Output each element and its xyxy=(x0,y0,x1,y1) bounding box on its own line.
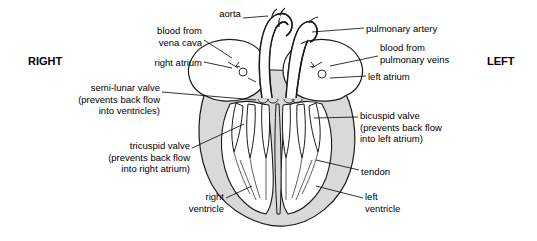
label-aorta: aorta xyxy=(200,8,260,20)
side-label-right: RIGHT xyxy=(28,56,62,68)
heart-diagram-page: RIGHT LEFT aorta blood from vena cava ri… xyxy=(0,0,537,241)
label-left-atrium: left atrium xyxy=(368,71,448,83)
label-blood-from-vena-cava: blood from vena cava xyxy=(110,25,202,48)
right-atrium-chamber xyxy=(188,39,268,101)
label-left-ventricle: left ventricle xyxy=(365,191,425,214)
label-bicuspid-valve: bicuspid valve (prevents back flow into … xyxy=(360,110,485,145)
label-right-atrium: right atrium xyxy=(119,57,202,69)
label-blood-from-pulmonary-veins: blood from pulmonary veins xyxy=(380,42,490,65)
side-label-left: LEFT xyxy=(487,56,515,68)
label-tendon: tendon xyxy=(361,166,421,178)
label-right-ventricle: right ventricle xyxy=(158,191,224,214)
label-tricuspid-valve: tricuspid valve (prevents back flow into… xyxy=(55,140,190,175)
septum xyxy=(275,104,281,214)
label-semi-lunar-valve: semi-lunar valve (prevents back flow int… xyxy=(30,82,160,117)
label-pulmonary-artery: pulmonary artery xyxy=(366,23,476,35)
